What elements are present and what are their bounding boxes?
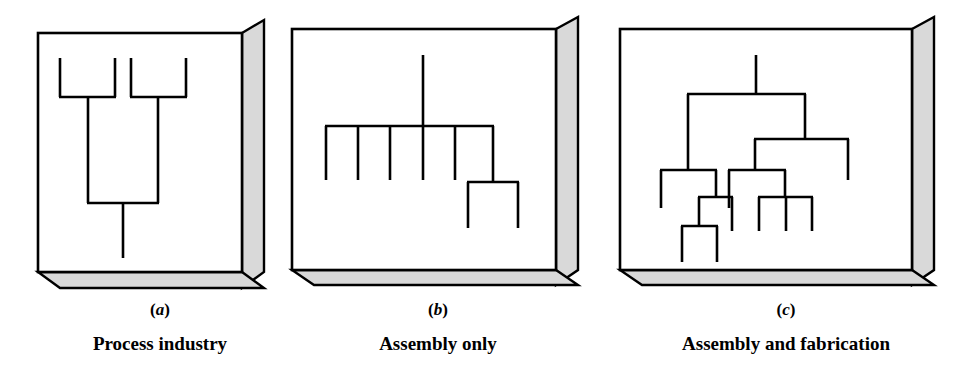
figure-three-bom-structures: (a) Process industry xyxy=(0,0,964,385)
panel-c-caption: Assembly and fabrication xyxy=(608,333,964,355)
panel-a-letter-close: ) xyxy=(164,300,170,319)
box-front-face xyxy=(38,33,242,272)
box-front-face xyxy=(620,29,912,270)
panel-a-caption: Process industry xyxy=(0,333,320,355)
panel-c-letter-close: ) xyxy=(790,300,796,319)
box-right-face xyxy=(242,20,264,288)
panel-a: (a) Process industry xyxy=(0,0,320,385)
panel-b-letter-value: b xyxy=(434,300,443,319)
panel-b-caption: Assembly only xyxy=(278,333,598,355)
box-right-face xyxy=(556,17,578,285)
panel-c-drawing xyxy=(608,0,964,300)
panel-b-drawing xyxy=(278,0,608,300)
panel-a-letter-value: a xyxy=(156,300,165,319)
panel-c: (c) Assembly and fabrication xyxy=(608,0,964,385)
panel-c-letter-value: c xyxy=(782,300,790,319)
box-bottom-face xyxy=(292,270,578,285)
panel-a-drawing xyxy=(0,0,320,300)
panel-b-letter: (b) xyxy=(278,300,598,320)
box-bottom-face xyxy=(620,270,934,285)
box-right-face xyxy=(912,17,934,285)
panel-a-letter: (a) xyxy=(0,300,320,320)
panel-b-letter-close: ) xyxy=(442,300,448,319)
panel-b: (b) Assembly only xyxy=(278,0,598,385)
panel-c-letter: (c) xyxy=(608,300,964,320)
box-bottom-face xyxy=(38,272,264,288)
